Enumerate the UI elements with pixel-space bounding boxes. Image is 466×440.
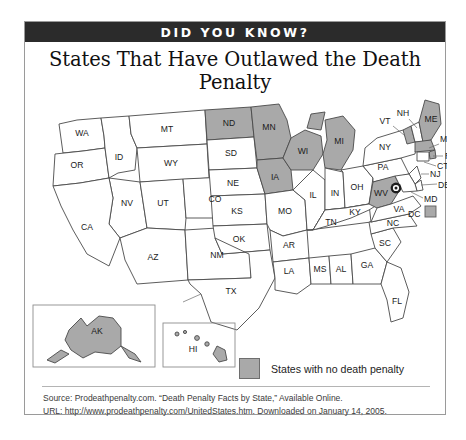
label-DE: DE [438,180,447,190]
label-WI: WI [298,146,309,156]
source-line-1: Source: Prodeathpenalty.com. “Death Pena… [43,392,435,405]
legend-label: States with no death penalty [271,363,404,375]
us-map: WA OR ID MT WY NV UT CO CA AZ NM ND SD N… [25,78,447,368]
label-NM: NM [210,250,223,260]
dc-target-marker [391,183,402,194]
label-RI: RI [445,151,447,161]
hawaii-island-3 [195,336,200,341]
label-NH: NH [397,108,409,118]
label-MN: MN [262,122,275,132]
label-IN: IN [331,188,340,198]
label-MI: MI [334,136,344,146]
legend-swatch [239,358,260,379]
label-CO: CO [209,194,222,204]
leader-line-de [421,184,437,185]
state-RI [429,150,436,159]
source-divider [42,386,430,387]
source-note: Source: Prodeathpenalty.com. “Death Pena… [43,392,435,418]
label-PA: PA [378,162,389,172]
dc-legend-swatch [425,206,436,217]
hawaii-island-2 [183,330,186,333]
label-KS: KS [231,206,243,216]
label-SD: SD [225,148,237,158]
label-IL: IL [309,190,316,200]
label-NY: NY [379,142,391,152]
map-legend: States with no death penalty [239,358,404,379]
label-VA: VA [394,204,405,214]
label-UT: UT [157,198,169,208]
label-OR: OR [71,160,84,170]
alaska-panhandle [121,346,141,362]
label-MS: MS [314,264,327,274]
label-CA: CA [81,222,93,232]
label-TX: TX [226,286,237,296]
label-NJ: NJ [430,169,441,179]
label-MO: MO [278,206,292,216]
label-SC: SC [379,238,391,248]
leader-line-tx-inset [183,294,201,302]
banner-title: DID YOU KNOW? [160,25,309,40]
label-GA: GA [361,260,374,270]
label-OK: OK [233,234,246,244]
label-MA: MA [440,134,447,144]
label-KY: KY [349,207,361,217]
label-AK: AK [91,326,103,336]
state-HI [213,346,227,362]
label-ME: ME [425,114,438,124]
hawaii-island-1 [175,332,179,336]
state-MN [251,104,291,160]
label-WA: WA [75,128,89,138]
label-MT: MT [161,124,174,134]
label-AL: AL [336,264,347,274]
label-LA: LA [284,266,295,276]
label-AZ: AZ [148,252,159,262]
label-AR: AR [283,240,295,250]
label-FL: FL [392,296,402,306]
label-NC: NC [387,218,399,228]
state-CT [417,152,429,161]
label-IA: IA [271,172,279,182]
state-LA [273,258,311,294]
label-NV: NV [121,198,133,208]
state-FL [381,262,409,322]
label-WY: WY [164,158,178,168]
label-NE: NE [227,178,239,188]
label-WV: WV [374,188,388,198]
source-line-2: URL: http://www.prodeathpenalty.com/Unit… [43,405,435,418]
infographic-card: DID YOU KNOW? States That Have Outlawed … [24,21,446,415]
label-DC: DC [408,209,420,219]
state-AK [65,316,121,358]
label-TN: TN [325,217,336,227]
label-MD: MD [424,194,437,204]
label-ND: ND [223,118,235,128]
label-HI: HI [189,344,198,354]
label-ID: ID [115,152,124,162]
label-OH: OH [351,182,364,192]
alaska-aleutians [47,350,69,363]
label-VT: VT [380,116,392,126]
did-you-know-banner: DID YOU KNOW? [25,22,445,42]
hawaii-island-4 [205,342,209,346]
leader-line-ct [424,162,436,166]
state-MA [415,140,435,152]
